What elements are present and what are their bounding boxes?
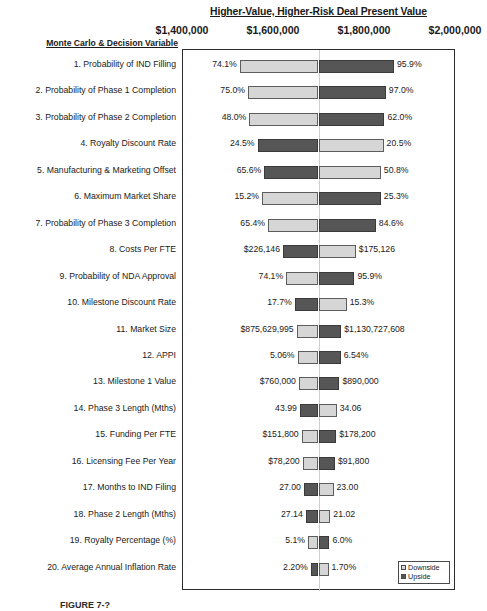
row-value-low: 27.14 xyxy=(281,509,303,519)
tornado-row: 7. Probability of Phase 3 Completion65.4… xyxy=(0,215,487,235)
row-label: 12. APPI xyxy=(0,350,176,360)
legend-item-downside: Downside xyxy=(401,563,447,572)
bar-segment-high xyxy=(319,377,340,390)
tornado-row: 14. Phase 3 Length (Mths)43.9934.06 xyxy=(0,400,487,420)
tornado-row: 9. Probability of NDA Approval74.1%95.9% xyxy=(0,268,487,288)
row-bar-area: $760,000$890,000 xyxy=(182,373,455,393)
row-value-low: 17.7% xyxy=(267,297,292,307)
tornado-row: 12. APPI5.06%6.54% xyxy=(0,347,487,367)
tornado-row: 15. Funding Per FTE$151,800$178,200 xyxy=(0,426,487,446)
legend-item-upside: Upside xyxy=(401,572,447,581)
tornado-row: 11. Market Size$875,629,995$1,130,727,60… xyxy=(0,321,487,341)
bar-segment-high xyxy=(319,563,329,576)
bar-segment-low xyxy=(283,245,318,258)
bar-segment-low xyxy=(240,60,319,73)
bar-segment-high xyxy=(319,245,356,258)
bar-segment-low xyxy=(299,377,319,390)
bar-segment-low xyxy=(262,192,318,205)
row-value-low: 43.99 xyxy=(275,403,297,413)
row-value-low: 2.20% xyxy=(283,562,308,572)
row-value-low: 65.4% xyxy=(240,218,265,228)
row-value-high: 21.02 xyxy=(333,509,355,519)
row-value-low: 75.0% xyxy=(220,85,245,95)
bar-segment-low xyxy=(248,86,319,99)
variable-column-header: Monte Carlo & Decision Variable xyxy=(0,38,178,48)
row-bar-area: 24.5%20.5% xyxy=(182,135,455,155)
bar-segment-low xyxy=(306,510,319,523)
bar-segment-high xyxy=(319,86,386,99)
row-value-low: $875,629,995 xyxy=(241,324,294,334)
row-label: 1. Probability of IND Filling xyxy=(0,59,176,69)
row-value-high: 1.70% xyxy=(332,562,357,572)
tornado-row: 10. Milestone Discount Rate17.7%15.3% xyxy=(0,294,487,314)
bar-segment-low xyxy=(264,166,318,179)
row-bar-area: 17.7%15.3% xyxy=(182,294,455,314)
x-axis-tick-1: $1,600,000 xyxy=(246,24,299,36)
row-value-high: $91,800 xyxy=(338,456,369,466)
row-value-low: 48.0% xyxy=(222,112,247,122)
row-label: 5. Manufacturing & Marketing Offset xyxy=(0,165,176,175)
bar-segment-low xyxy=(258,139,319,152)
row-bar-area: $875,629,995$1,130,727,608 xyxy=(182,321,455,341)
bar-segment-high xyxy=(319,298,347,311)
figure-caption: FIGURE 7-? xyxy=(60,600,460,610)
row-label: 20. Average Annual Inflation Rate xyxy=(0,562,176,572)
bar-segment-high xyxy=(319,219,376,232)
tornado-row: 16. Licensing Fee Per Year$78,200$91,800 xyxy=(0,453,487,473)
tornado-row: 4. Royalty Discount Rate24.5%20.5% xyxy=(0,135,487,155)
row-value-low: 15.2% xyxy=(234,191,259,201)
row-value-high: 20.5% xyxy=(387,138,412,148)
bar-segment-low xyxy=(286,272,318,285)
row-value-low: 24.5% xyxy=(230,138,255,148)
row-bar-area: $78,200$91,800 xyxy=(182,453,455,473)
tornado-row: 3. Probability of Phase 2 Completion48.0… xyxy=(0,109,487,129)
row-value-high: 62.0% xyxy=(387,112,412,122)
row-value-high: $175,126 xyxy=(359,244,395,254)
row-bar-area: 75.0%97.0% xyxy=(182,82,455,102)
row-bar-area: 65.6%50.8% xyxy=(182,162,455,182)
row-bar-area: 15.2%25.3% xyxy=(182,188,455,208)
legend-label: Downside xyxy=(408,563,440,572)
tornado-row: 6. Maximum Market Share15.2%25.3% xyxy=(0,188,487,208)
row-bar-area: 5.06%6.54% xyxy=(182,347,455,367)
tornado-chart: Higher-Value, Higher-Risk Deal Present V… xyxy=(0,0,487,611)
row-label: 6. Maximum Market Share xyxy=(0,191,176,201)
bar-segment-low xyxy=(268,219,319,232)
row-value-high: 23.00 xyxy=(337,482,359,492)
bar-segment-low xyxy=(297,325,319,338)
bar-segment-low xyxy=(249,113,318,126)
row-label: 9. Probability of NDA Approval xyxy=(0,271,176,281)
row-bar-area: 43.9934.06 xyxy=(182,400,455,420)
row-bar-area: 5.1%6.0% xyxy=(182,532,455,552)
row-label: 10. Milestone Discount Rate xyxy=(0,297,176,307)
tornado-row: 1. Probability of IND Filling74.1%95.9% xyxy=(0,56,487,76)
row-label: 3. Probability of Phase 2 Completion xyxy=(0,112,176,122)
bar-segment-high xyxy=(319,351,341,364)
bar-segment-high xyxy=(319,536,330,549)
row-value-high: 15.3% xyxy=(350,297,375,307)
bar-segment-high xyxy=(319,404,337,417)
tornado-row: 2. Probability of Phase 1 Completion75.0… xyxy=(0,82,487,102)
x-axis-tick-0: $1,400,000 xyxy=(155,24,208,36)
row-label: 14. Phase 3 Length (Mths) xyxy=(0,403,176,413)
row-value-high: 50.8% xyxy=(384,165,409,175)
row-value-high: 84.6% xyxy=(379,218,404,228)
row-value-high: $178,200 xyxy=(339,429,375,439)
row-value-low: 5.1% xyxy=(285,535,305,545)
tornado-row: 19. Royalty Percentage (%)5.1%6.0% xyxy=(0,532,487,552)
row-value-low: $226,146 xyxy=(244,244,280,254)
row-value-high: 6.54% xyxy=(344,350,369,360)
row-value-low: 5.06% xyxy=(270,350,295,360)
bar-segment-low xyxy=(298,351,319,364)
bar-segment-high xyxy=(319,166,381,179)
legend-swatch-icon xyxy=(401,574,406,579)
row-label: 11. Market Size xyxy=(0,324,176,334)
bar-segment-high xyxy=(319,139,384,152)
row-bar-area: 74.1%95.9% xyxy=(182,268,455,288)
x-axis-tick-3: $2,000,000 xyxy=(428,24,481,36)
row-value-low: 74.1% xyxy=(259,271,284,281)
row-value-low: 27.00 xyxy=(279,482,301,492)
bar-segment-high xyxy=(319,430,337,443)
row-label: 8. Costs Per FTE xyxy=(0,244,176,254)
row-value-high: 25.3% xyxy=(384,191,409,201)
